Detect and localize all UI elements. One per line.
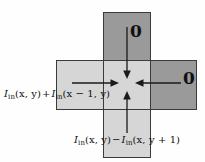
cell-center — [103, 60, 151, 110]
vertical-operator: − — [111, 134, 121, 145]
vertical-term1-args: (x, y) — [85, 134, 111, 145]
cell-left — [56, 60, 104, 110]
flux-cross-diagram: 0 0 Iin(x, y)+Iin(x − 1, y) Iin(x, y)−Ii… — [0, 0, 205, 162]
label-zero-right: 0 — [183, 70, 195, 87]
horizontal-term1-args: (x, y) — [15, 88, 41, 99]
vertical-term2: Iin(x, y + 1) — [122, 134, 181, 145]
label-vertical-flux: Iin(x, y)−Iin(x, y + 1) — [74, 134, 180, 145]
horizontal-term1: Iin(x, y) — [4, 88, 41, 99]
label-zero-top: 0 — [130, 23, 142, 40]
horizontal-term2: Iin(x − 1, y) — [52, 88, 111, 99]
horizontal-term1-sub: in — [8, 93, 15, 101]
cell-top — [103, 12, 151, 61]
horizontal-operator: + — [41, 88, 51, 99]
label-horizontal-flux: Iin(x, y)+Iin(x − 1, y) — [4, 88, 110, 99]
vertical-term1: Iin(x, y) — [74, 134, 111, 145]
vertical-term2-sub: in — [126, 139, 133, 147]
vertical-term1-sub: in — [78, 139, 85, 147]
vertical-term2-args: (x, y + 1) — [133, 134, 181, 145]
horizontal-term2-sub: in — [56, 93, 63, 101]
horizontal-term2-args: (x − 1, y) — [63, 88, 111, 99]
